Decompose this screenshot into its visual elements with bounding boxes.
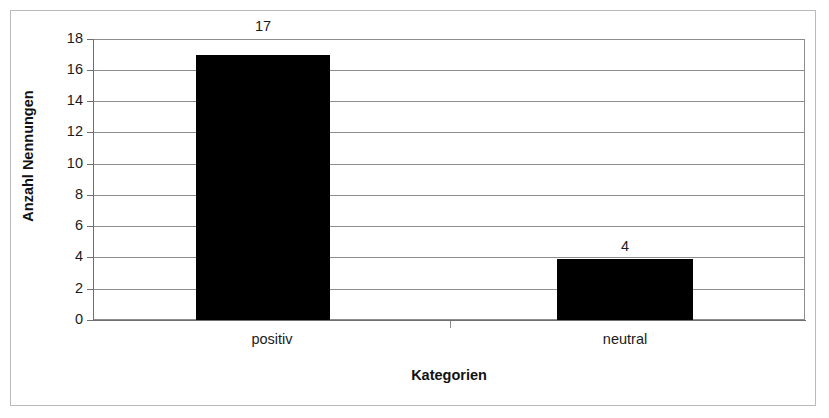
x-axis-title: Kategorien bbox=[93, 367, 805, 383]
plot-area bbox=[93, 39, 805, 320]
y-tick-label: 10 bbox=[55, 156, 83, 171]
y-tick-label: 14 bbox=[55, 93, 83, 108]
x-tick-label-positiv: positiv bbox=[222, 332, 322, 348]
bar-chart-figure: Anzahl Nennungen 18 16 14 12 10 8 6 4 2 … bbox=[0, 0, 829, 418]
y-axis-line bbox=[93, 39, 94, 321]
x-axis-line bbox=[93, 320, 806, 321]
y-tick-2: 2 bbox=[50, 281, 83, 297]
x-tick-label-neutral: neutral bbox=[575, 332, 675, 348]
y-tick-label: 8 bbox=[55, 187, 83, 202]
y-tick-14: 14 bbox=[50, 93, 83, 109]
y-tick-label: 12 bbox=[55, 124, 83, 139]
bar-value-label-neutral: 4 bbox=[590, 239, 660, 254]
y-tick-8: 8 bbox=[50, 187, 83, 203]
y-tick-label: 18 bbox=[55, 31, 83, 46]
y-tick-12: 12 bbox=[50, 124, 83, 140]
y-tick-label: 6 bbox=[55, 218, 83, 233]
y-tick-6: 6 bbox=[50, 218, 83, 234]
x-tick-mark bbox=[450, 321, 451, 328]
y-tick-16: 16 bbox=[50, 62, 83, 78]
y-tick-label: 0 bbox=[55, 312, 83, 327]
bar-value-label-positiv: 17 bbox=[228, 19, 298, 34]
y-tick-18: 18 bbox=[50, 31, 83, 47]
y-tick-4: 4 bbox=[50, 249, 83, 265]
y-axis-title: Anzahl Nennungen bbox=[20, 66, 36, 246]
y-tick-label: 16 bbox=[55, 62, 83, 77]
bar-neutral[interactable] bbox=[557, 259, 693, 320]
bar-positiv[interactable] bbox=[196, 55, 330, 320]
y-tick-label: 2 bbox=[55, 281, 83, 296]
y-tick-label: 4 bbox=[55, 249, 83, 264]
y-tick-10: 10 bbox=[50, 156, 83, 172]
y-tick-0: 0 bbox=[50, 312, 83, 328]
